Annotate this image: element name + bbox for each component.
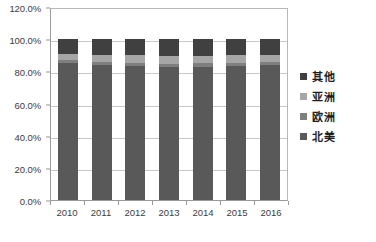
- y-axis: 120.0%100.0%80.0%60.0%40.0%20.0%0.0%: [0, 0, 46, 208]
- legend-swatch-icon: [300, 93, 307, 100]
- x-axis-tick-mark: [152, 201, 153, 205]
- y-axis-tick-label: 60.0%: [15, 99, 41, 110]
- x-axis-tick-label: 2014: [192, 207, 213, 218]
- bar-column: [260, 9, 280, 200]
- x-axis-tick: 2011: [91, 201, 111, 225]
- legend-label: 亚洲: [312, 88, 335, 104]
- legend-label: 其他: [312, 68, 335, 84]
- x-axis-tick: 2016: [261, 201, 281, 225]
- x-axis-tick-label: 2013: [158, 207, 179, 218]
- bar-column: [193, 9, 213, 200]
- x-axis-tick: 2012: [125, 201, 145, 225]
- bar-segment: [159, 56, 179, 64]
- bar-column: [226, 9, 246, 200]
- x-axis-tick: 2013: [159, 201, 179, 225]
- y-axis-tick-label: 80.0%: [15, 67, 41, 78]
- x-axis: 2010201120122013201420152016: [50, 201, 288, 225]
- bar-segment: [125, 66, 145, 200]
- x-axis-tick: 2015: [227, 201, 247, 225]
- bar-segment: [226, 55, 246, 62]
- bar-segment: [92, 65, 112, 200]
- bar-column: [92, 9, 112, 200]
- x-axis-tick: 2014: [193, 201, 213, 225]
- x-axis-tick-mark: [186, 201, 187, 205]
- bar-segment: [58, 39, 78, 54]
- x-axis-tick: 2010: [57, 201, 77, 225]
- x-axis-tick-mark: [118, 201, 119, 205]
- legend-swatch-icon: [300, 133, 307, 140]
- legend-item[interactable]: 北美: [300, 126, 372, 146]
- x-axis-tick-mark: [220, 201, 221, 205]
- bar-segment: [226, 66, 246, 200]
- x-axis-tick-mark: [288, 201, 289, 205]
- x-axis-tick-label: 2010: [56, 207, 77, 218]
- legend-item[interactable]: 其他: [300, 66, 372, 86]
- y-axis-tick-label: 20.0%: [15, 163, 41, 174]
- legend-label: 北美: [312, 128, 335, 144]
- legend-swatch-icon: [300, 73, 307, 80]
- y-axis-tick-label: 100.0%: [9, 35, 41, 46]
- bar-segment: [260, 65, 280, 200]
- legend-item[interactable]: 亚洲: [300, 86, 372, 106]
- chart-legend: 其他亚洲欧洲北美: [300, 66, 372, 146]
- plot-area: [50, 8, 288, 201]
- x-axis-tick-label: 2012: [124, 207, 145, 218]
- bar-segment: [226, 39, 246, 55]
- bar-segment: [125, 39, 145, 55]
- y-axis-tick-label: 120.0%: [9, 3, 41, 14]
- bar-column: [58, 9, 78, 200]
- bar-segment: [58, 63, 78, 200]
- bar-group: [51, 9, 287, 200]
- x-axis-tick-label: 2016: [260, 207, 281, 218]
- x-axis-tick-mark: [50, 201, 51, 205]
- x-axis-tick-label: 2015: [226, 207, 247, 218]
- y-axis-tick-label: 0.0%: [20, 196, 41, 207]
- bar-segment: [92, 39, 112, 55]
- bar-segment: [193, 56, 213, 63]
- bar-column: [125, 9, 145, 200]
- x-axis-tick-mark: [254, 201, 255, 205]
- bar-segment: [125, 55, 145, 62]
- legend-swatch-icon: [300, 113, 307, 120]
- bar-segment: [159, 67, 179, 200]
- x-axis-tick-label: 2011: [91, 207, 111, 218]
- bar-segment: [159, 39, 179, 56]
- stacked-bar-chart: 120.0%100.0%80.0%60.0%40.0%20.0%0.0% 201…: [0, 0, 376, 242]
- bar-segment: [193, 67, 213, 200]
- x-axis-tick-mark: [84, 201, 85, 205]
- bar-segment: [193, 39, 213, 56]
- bar-column: [159, 9, 179, 200]
- bar-segment: [260, 39, 280, 55]
- legend-item[interactable]: 欧洲: [300, 106, 372, 126]
- y-axis-tick-label: 40.0%: [15, 131, 41, 142]
- legend-label: 欧洲: [312, 108, 335, 124]
